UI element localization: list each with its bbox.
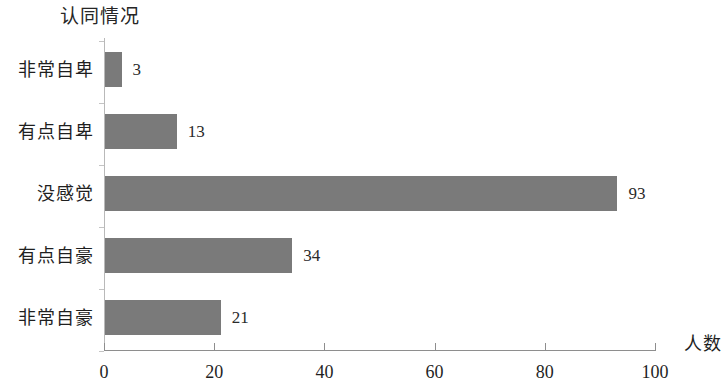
value-axis-tick-label: 100 xyxy=(625,360,685,384)
bar-value-label: 3 xyxy=(133,52,142,87)
plot-area: 313933421 xyxy=(104,38,655,350)
value-axis-tick xyxy=(104,343,105,351)
value-axis-tick-label: 80 xyxy=(515,360,575,384)
category-axis-tick xyxy=(99,165,104,166)
value-axis-tick xyxy=(545,343,546,351)
category-axis-tick xyxy=(99,227,104,228)
category-label: 非常自豪 xyxy=(0,307,94,329)
category-label: 没感觉 xyxy=(0,183,94,205)
bar xyxy=(105,176,617,211)
bar-value-label: 93 xyxy=(628,176,645,211)
value-axis-tick-label: 40 xyxy=(294,360,354,384)
category-axis-tick xyxy=(99,351,104,352)
bar xyxy=(105,52,122,87)
category-label: 有点自豪 xyxy=(0,245,94,267)
bar xyxy=(105,238,292,273)
bar xyxy=(105,300,221,335)
value-axis-tick xyxy=(435,343,436,351)
value-axis-tick-label: 60 xyxy=(405,360,465,384)
value-axis-tick-label: 0 xyxy=(74,360,134,384)
category-axis-tick xyxy=(99,289,104,290)
bar-value-label: 13 xyxy=(188,114,205,149)
category-axis-tick xyxy=(99,41,104,42)
bar-value-label: 34 xyxy=(303,238,320,273)
value-axis-title: 人数 xyxy=(684,332,722,356)
value-axis-line xyxy=(104,350,656,351)
bar-value-label: 21 xyxy=(232,300,249,335)
category-label: 非常自卑 xyxy=(0,59,94,81)
category-label: 有点自卑 xyxy=(0,121,94,143)
value-axis-tick xyxy=(214,343,215,351)
value-axis-tick-label: 20 xyxy=(184,360,244,384)
category-axis-tick xyxy=(99,103,104,104)
bar-chart: 认同情况 313933421 020406080100 非常自卑有点自卑没感觉有… xyxy=(0,0,728,391)
value-axis-tick xyxy=(324,343,325,351)
chart-title: 认同情况 xyxy=(60,4,140,30)
bar xyxy=(105,114,177,149)
value-axis-tick xyxy=(655,343,656,351)
